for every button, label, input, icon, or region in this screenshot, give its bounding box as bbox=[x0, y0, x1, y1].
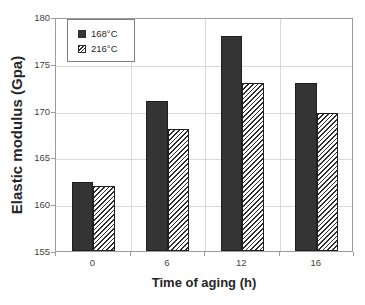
bar-168°C-12 bbox=[221, 36, 243, 251]
bar-chart-figure: Elastic modulus (Gpa) 155160165170175180… bbox=[0, 0, 365, 305]
y-tick-label-180: 180 bbox=[22, 13, 50, 23]
y-tick-label-175: 175 bbox=[22, 60, 50, 70]
gridline-x-3 bbox=[280, 19, 281, 251]
bar-216°C-0 bbox=[93, 186, 115, 251]
bar-216°C-6 bbox=[168, 129, 190, 251]
x-tick-label-6: 6 bbox=[152, 258, 182, 268]
bar-168°C-16 bbox=[295, 83, 317, 252]
x-tick-label-0: 0 bbox=[77, 258, 107, 268]
bar-216°C-16 bbox=[317, 113, 339, 251]
legend-label-168c: 168°C bbox=[91, 29, 118, 39]
x-tick-2 bbox=[204, 252, 205, 256]
bar-168°C-6 bbox=[146, 101, 168, 251]
y-tick-175 bbox=[51, 65, 55, 66]
bar-168°C-0 bbox=[72, 182, 94, 251]
bar-216°C-12 bbox=[242, 83, 264, 252]
x-tick-3 bbox=[279, 252, 280, 256]
x-tick-1 bbox=[130, 252, 131, 256]
x-tick-4 bbox=[353, 252, 354, 256]
gridline-x-2 bbox=[205, 19, 206, 251]
y-tick-label-155: 155 bbox=[22, 247, 50, 257]
y-tick-label-170: 170 bbox=[22, 107, 50, 117]
y-tick-label-165: 165 bbox=[22, 153, 50, 163]
y-tick-165 bbox=[51, 158, 55, 159]
legend-swatch-168c bbox=[78, 30, 86, 38]
x-tick-label-16: 16 bbox=[301, 258, 331, 268]
legend-entry-168c: 168°C bbox=[78, 26, 134, 41]
x-tick-0 bbox=[55, 252, 56, 256]
gridline-y-175 bbox=[56, 66, 352, 67]
y-tick-160 bbox=[51, 205, 55, 206]
legend-entry-216c: 216°C bbox=[78, 41, 134, 56]
legend-label-216c: 216°C bbox=[91, 44, 118, 54]
legend: 168°C 216°C bbox=[67, 19, 135, 62]
x-axis-title: Time of aging (h) bbox=[55, 275, 353, 290]
legend-swatch-216c bbox=[78, 45, 86, 53]
x-tick-label-12: 12 bbox=[226, 258, 256, 268]
y-tick-180 bbox=[51, 18, 55, 19]
y-axis-title: Elastic modulus (Gpa) bbox=[8, 56, 25, 214]
y-tick-170 bbox=[51, 112, 55, 113]
y-tick-label-160: 160 bbox=[22, 200, 50, 210]
